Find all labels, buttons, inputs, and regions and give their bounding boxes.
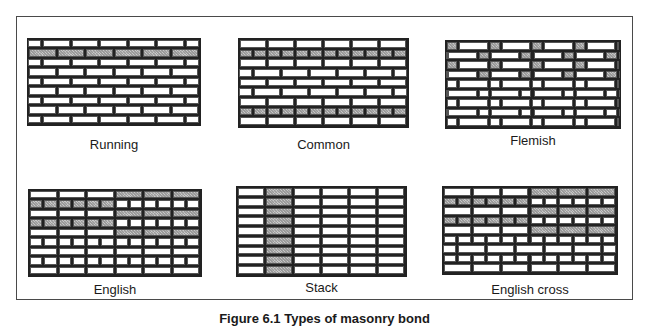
wall-english-cross (442, 186, 618, 275)
header-brick (458, 217, 470, 225)
header-brick (268, 108, 280, 116)
stretcher-brick (448, 71, 476, 79)
header-brick (606, 71, 616, 79)
brick-course (443, 197, 617, 207)
stretcher-brick (294, 198, 320, 206)
stretcher-brick (322, 256, 348, 264)
brick-course (443, 187, 617, 197)
stretcher-brick (268, 59, 294, 67)
stretcher-brick (238, 227, 264, 235)
header-brick (187, 257, 199, 264)
stretcher-brick (266, 266, 292, 274)
stretcher-brick (588, 207, 615, 215)
header-brick (444, 255, 456, 263)
stretcher-brick (43, 40, 70, 47)
header-brick (531, 255, 543, 263)
header-brick (545, 198, 557, 206)
header-brick (479, 52, 489, 60)
stretcher-brick (268, 117, 294, 125)
header-brick (502, 198, 514, 206)
header-brick (588, 236, 600, 244)
header-brick (574, 217, 586, 225)
stretcher-brick (394, 69, 407, 77)
stretcher-brick (502, 99, 530, 107)
brick-course (446, 60, 620, 70)
header-brick (282, 108, 294, 116)
header-brick (447, 99, 457, 107)
header-brick (487, 236, 499, 244)
header-brick (268, 50, 280, 58)
header-brick (559, 236, 571, 244)
stretcher-brick (282, 88, 308, 96)
header-brick (532, 80, 542, 88)
stretcher-brick (144, 191, 171, 198)
header-brick (617, 99, 619, 107)
stretcher-brick (502, 61, 530, 69)
stretcher-brick (86, 106, 113, 113)
stretcher-brick (350, 247, 376, 255)
stretcher-brick (350, 217, 376, 225)
stretcher-brick (619, 109, 621, 117)
header-brick (240, 108, 252, 116)
stretcher-brick (352, 79, 378, 87)
stretcher-brick (378, 227, 404, 235)
stretcher-brick (296, 79, 322, 87)
stretcher-brick (59, 191, 86, 198)
stretcher-brick (239, 69, 252, 77)
wall-common (238, 38, 409, 128)
stretcher-brick (338, 88, 364, 96)
brick-course (29, 256, 201, 265)
header-brick (490, 61, 500, 69)
stretcher-brick (352, 98, 378, 106)
header-brick (479, 109, 489, 117)
stretcher-brick (186, 59, 199, 66)
stretcher-brick (588, 264, 615, 272)
header-brick (44, 200, 56, 207)
header-brick (531, 217, 543, 225)
header-brick (59, 200, 71, 207)
brick-course (237, 197, 406, 207)
stretcher-brick (266, 227, 292, 235)
stretcher-brick (487, 245, 514, 253)
header-brick (444, 198, 456, 206)
stretcher-brick (116, 191, 143, 198)
stretcher-brick (266, 198, 292, 206)
brick-course (237, 216, 406, 226)
stretcher-brick (144, 248, 171, 255)
header-brick (59, 238, 71, 245)
stretcher-brick (473, 188, 500, 196)
stretcher-brick (30, 267, 57, 274)
stretcher-brick (378, 247, 404, 255)
stretcher-brick (587, 80, 615, 88)
header-brick (588, 198, 600, 206)
stretcher-brick (282, 69, 308, 77)
stretcher-brick (143, 87, 170, 94)
header-brick (352, 50, 364, 58)
stretcher-brick (296, 117, 322, 125)
header-brick (617, 42, 619, 50)
stretcher-brick (531, 188, 558, 196)
stretcher-brick (502, 80, 530, 88)
header-brick (30, 238, 42, 245)
stretcher-brick (366, 69, 392, 77)
header-brick (338, 108, 350, 116)
stretcher-brick (143, 106, 170, 113)
header-brick (187, 200, 199, 207)
header-brick (575, 42, 585, 50)
stretcher-brick (240, 117, 266, 125)
header-brick (588, 217, 600, 225)
stretcher-brick (350, 227, 376, 235)
brick-course (446, 70, 620, 80)
stretcher-brick (473, 207, 500, 215)
stretcher-brick (322, 266, 348, 274)
stretcher-brick (116, 210, 143, 217)
stretcher-brick (240, 98, 266, 106)
stretcher-brick (587, 118, 615, 126)
stretcher-brick (240, 79, 266, 87)
header-brick (158, 257, 170, 264)
stretcher-brick (294, 266, 320, 274)
header-brick (73, 238, 85, 245)
stretcher-brick (491, 52, 519, 60)
stretcher-brick (72, 40, 99, 47)
stretcher-brick (378, 208, 404, 216)
